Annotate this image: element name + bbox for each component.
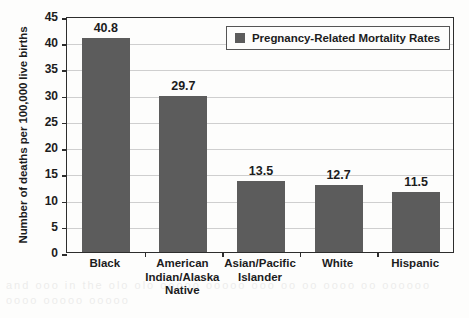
bar-value-label: 13.5 — [249, 164, 273, 178]
bar-chart: Number of deaths per 100,000 live births… — [0, 0, 469, 318]
x-axis-category-label: AmericanIndian/AlaskaNative — [145, 257, 219, 298]
x-axis-category-label-line: White — [322, 257, 353, 271]
bar-slot: 11.5 — [377, 18, 455, 252]
x-axis-category-label-line: Indian/Alaska — [145, 271, 219, 285]
x-axis-category-label: Black — [89, 257, 120, 271]
y-axis-tick-label: 5 — [51, 220, 58, 234]
bar-value-label: 12.7 — [326, 168, 350, 182]
y-axis-tick-label: 0 — [51, 246, 58, 260]
y-axis-tick-label: 35 — [45, 62, 58, 76]
x-axis-category-label-line: Islander — [224, 271, 296, 285]
x-axis-category-label-line: Native — [145, 284, 219, 298]
bar-slot: 40.8 — [67, 18, 145, 252]
y-axis-tick-label: 10 — [45, 194, 58, 208]
x-axis-category-label-line: American — [145, 257, 219, 271]
y-axis-tick-mark — [62, 254, 67, 256]
y-axis-title: Number of deaths per 100,000 live births — [12, 16, 34, 254]
chart-legend: Pregnancy-Related Mortality Rates — [226, 26, 450, 50]
y-axis-tick-labels: 051015202530354045 — [36, 11, 62, 259]
y-axis-tick-label: 30 — [45, 89, 58, 103]
bar-slot: 13.5 — [222, 18, 300, 252]
x-axis-category-label-line: Black — [89, 257, 120, 271]
y-axis-tick-label: 15 — [45, 167, 58, 181]
x-axis-category-labels: BlackAmericanIndian/AlaskaNativeAsian/Pa… — [66, 257, 454, 315]
y-axis-title-text: Number of deaths per 100,000 live births — [17, 26, 29, 243]
bar[interactable] — [315, 185, 363, 252]
x-axis-category-label: Asian/PacificIslander — [224, 257, 296, 284]
y-axis-tick-label: 40 — [45, 36, 58, 50]
bar[interactable] — [159, 96, 207, 252]
bar-value-label: 29.7 — [171, 79, 195, 93]
x-axis-category-label-line: Asian/Pacific — [224, 257, 296, 271]
y-axis-tick-label: 20 — [45, 141, 58, 155]
bar[interactable] — [237, 181, 285, 252]
x-axis-category-label-line: Hispanic — [391, 257, 439, 271]
bar[interactable] — [392, 192, 440, 252]
bar-value-label: 40.8 — [94, 21, 118, 35]
legend-label: Pregnancy-Related Mortality Rates — [252, 32, 440, 44]
y-axis-tick-label: 25 — [45, 115, 58, 129]
bars-layer: 40.829.713.512.711.5 — [67, 18, 453, 252]
bar-slot: 12.7 — [300, 18, 378, 252]
x-axis-category-label: White — [322, 257, 353, 271]
x-axis-category-label: Hispanic — [391, 257, 439, 271]
bar-slot: 29.7 — [145, 18, 223, 252]
legend-swatch-icon — [235, 33, 245, 43]
bar-value-label: 11.5 — [404, 175, 428, 189]
plot-area: 40.829.713.512.711.5 — [66, 17, 454, 253]
y-axis-tick-label: 45 — [45, 10, 58, 24]
bar[interactable] — [82, 38, 130, 252]
